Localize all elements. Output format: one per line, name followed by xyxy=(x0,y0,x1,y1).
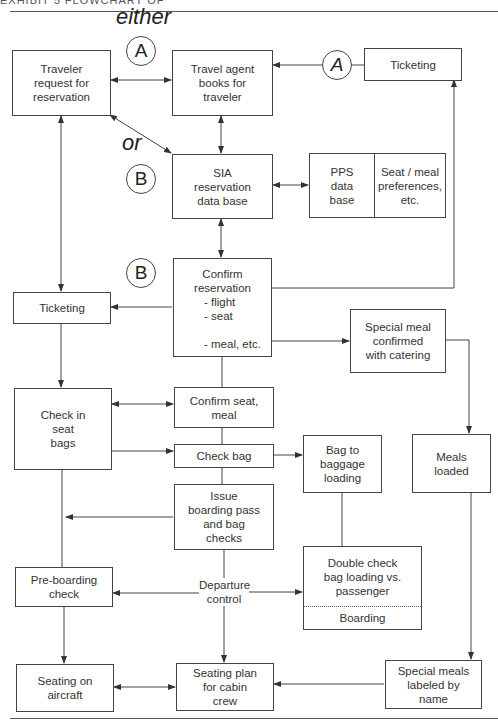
node-issue-boarding-pass: Issue boarding pass and bag checks xyxy=(174,484,274,550)
node-seating-plan: Seating plan for cabin crew xyxy=(176,663,274,711)
node-pps-database: PPS data base xyxy=(310,154,375,217)
confirm-item-flight: - flight xyxy=(174,295,235,309)
either-label: either xyxy=(116,4,171,30)
node-ticketing-left: Ticketing xyxy=(13,292,111,324)
marker-a-right: A xyxy=(322,50,352,80)
node-boarding: Boarding xyxy=(304,607,421,629)
node-meals-loaded: Meals loaded xyxy=(412,434,491,493)
confirm-item-seat: - seat xyxy=(174,309,233,323)
node-double-check-group: Double check bag loading vs. passenger B… xyxy=(303,546,422,630)
node-check-bag: Check bag xyxy=(174,444,274,468)
marker-b-mid: B xyxy=(126,164,156,194)
node-ticketing-top: Ticketing xyxy=(364,48,462,81)
or-label: or xyxy=(122,130,142,156)
confirm-reservation-title: Confirm reservation xyxy=(194,267,251,295)
node-pps-group: PPS data base Seat / meal preferences, e… xyxy=(309,153,446,218)
node-seat-meal-preferences: Seat / meal preferences, etc. xyxy=(375,154,445,217)
node-sia-database: SIA reservation data base xyxy=(172,154,273,219)
node-seating-on-aircraft: Seating on aircraft xyxy=(16,664,114,712)
confirm-item-meal: - meal, etc. xyxy=(174,337,261,351)
node-confirm-reservation: Confirm reservation - flight - seat - me… xyxy=(173,258,272,357)
node-special-meals-labeled: Special meals labeled by name xyxy=(385,660,482,709)
node-traveler-request: Traveler request for reservation xyxy=(12,50,111,116)
marker-b-low: B xyxy=(126,258,156,288)
node-confirm-seat-meal: Confirm seat, meal xyxy=(174,387,274,428)
node-bag-to-baggage-loading: Bag to baggage loading xyxy=(303,435,382,493)
node-check-in: Check in seat bags xyxy=(14,388,112,470)
node-double-check: Double check bag loading vs. passenger xyxy=(304,547,421,607)
marker-a-top: A xyxy=(126,36,156,66)
node-pre-boarding-check: Pre-boarding check xyxy=(15,567,113,607)
node-special-meal-confirmed: Special meal confirmed with catering xyxy=(350,309,446,373)
node-travel-agent: Travel agent books for traveler xyxy=(172,50,273,116)
label-departure-control: Departure control xyxy=(199,578,249,606)
